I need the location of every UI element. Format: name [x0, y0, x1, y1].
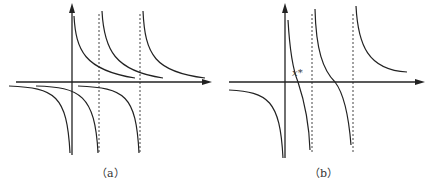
curve-neg-3: [78, 86, 139, 153]
curve-pos-2: [102, 11, 163, 78]
x-axis-arrow-icon: [415, 79, 425, 85]
caption-b: （b）: [309, 164, 338, 180]
panel-b-plot: [213, 0, 427, 184]
caption-a: （a）: [96, 164, 125, 180]
panel-a-plot: [0, 0, 213, 184]
curve-middle-branch-1: [288, 20, 310, 150]
root-label-x-star: x*: [292, 67, 303, 78]
panel-b: x* （b）: [213, 0, 426, 184]
curve-middle-branch-2: [315, 9, 351, 145]
x-axis-arrow-icon: [202, 79, 212, 85]
curve-pos-3: [143, 11, 205, 78]
curve-neg-2: [36, 86, 98, 153]
curve-neg-1: [9, 86, 70, 153]
y-axis-arrow-icon: [282, 3, 288, 13]
panel-a: （a）: [0, 0, 213, 184]
y-axis-arrow-icon: [69, 3, 75, 13]
curve-pos-1: [74, 16, 135, 78]
curve-right-branch: [356, 6, 407, 72]
curve-left-branch: [229, 90, 283, 158]
